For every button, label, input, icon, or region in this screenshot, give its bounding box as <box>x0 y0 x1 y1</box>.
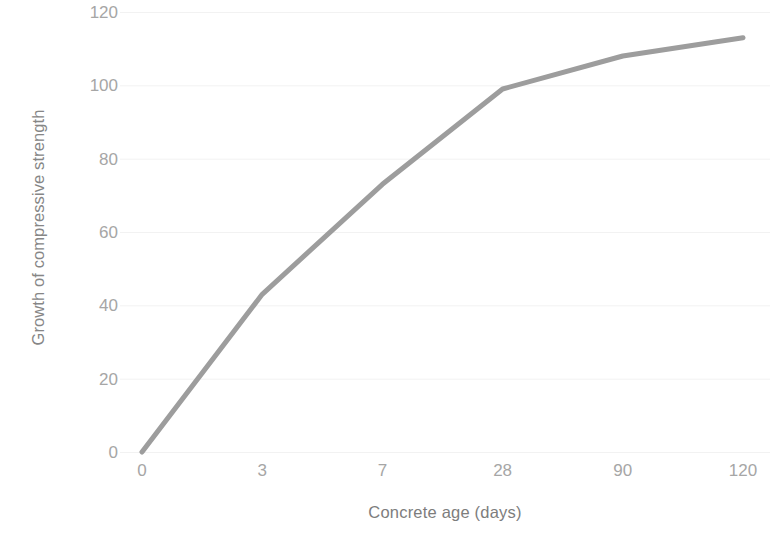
y-axis-tick-label: 40 <box>52 297 118 314</box>
y-axis-title: Growth of compressive strength <box>29 18 48 438</box>
y-axis-tick-label: 100 <box>52 77 118 94</box>
x-axis-tick-label: 7 <box>342 462 422 479</box>
y-axis-tick-label: 60 <box>52 224 118 241</box>
gridlines <box>120 13 770 453</box>
line-chart: 020406080100120 0372890120 Growth of com… <box>0 0 776 534</box>
y-axis-tick-label: 120 <box>52 4 118 21</box>
y-axis-tick-label: 0 <box>52 444 118 461</box>
x-axis-tick-label: 0 <box>102 462 182 479</box>
series-line-growth-of-compressive-strength <box>142 38 743 452</box>
x-axis-tick-label: 120 <box>703 462 776 479</box>
x-axis-tick-label: 3 <box>222 462 302 479</box>
x-axis-tick-label: 28 <box>463 462 543 479</box>
y-axis-tick-label: 80 <box>52 151 118 168</box>
x-axis-title: Concrete age (days) <box>120 503 770 522</box>
x-axis-tick-label: 90 <box>583 462 663 479</box>
y-axis-tick-label: 20 <box>52 371 118 388</box>
